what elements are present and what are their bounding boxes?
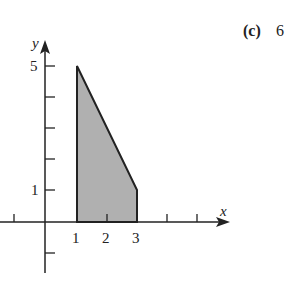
region-chart: 1 2 3 5 1 x y (c) 6 — [0, 0, 293, 283]
y-tick-label-5: 5 — [30, 58, 38, 74]
x-tick-label-1: 1 — [72, 230, 80, 246]
shaded-region — [77, 66, 137, 222]
part-label: (c) — [243, 22, 261, 40]
x-axis-label: x — [219, 203, 227, 219]
x-tick-label-2: 2 — [102, 230, 110, 246]
y-axis-label: y — [30, 35, 39, 51]
answer-value: 6 — [276, 22, 284, 39]
y-ticks — [45, 66, 55, 253]
y-tick-label-1: 1 — [31, 182, 39, 198]
x-tick-label-3: 3 — [132, 230, 140, 246]
